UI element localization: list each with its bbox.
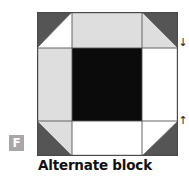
quilt-block (37, 12, 178, 156)
block-caption: Alternate block (38, 157, 152, 173)
corner-bottom-left (37, 121, 72, 156)
left-panel (37, 48, 72, 121)
bottom-panel (72, 121, 142, 156)
top-panel (72, 12, 142, 48)
section-badge: F (9, 135, 24, 151)
right-panel (142, 48, 178, 121)
arrow-down-icon: ↓ (178, 37, 188, 48)
quilt-block-svg (37, 12, 178, 156)
corner-top-right (142, 12, 178, 48)
center-square (72, 48, 142, 121)
corner-top-left (37, 12, 72, 48)
arrow-up-icon: ↑ (178, 115, 188, 126)
corner-bottom-right (142, 121, 178, 156)
